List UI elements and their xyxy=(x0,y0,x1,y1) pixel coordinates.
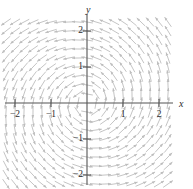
field-arrow xyxy=(146,154,155,161)
field-arrow xyxy=(147,27,154,36)
field-arrow xyxy=(2,45,10,53)
field-arrow xyxy=(46,64,55,70)
field-arrow xyxy=(165,144,172,153)
field-arrow xyxy=(109,37,118,43)
field-arrow xyxy=(128,135,136,142)
field-arrow xyxy=(113,89,115,100)
field-arrow xyxy=(56,144,64,151)
field-arrow xyxy=(66,116,72,125)
field-arrow xyxy=(55,73,64,79)
field-arrow xyxy=(21,171,28,180)
field-arrow xyxy=(157,44,162,54)
field-arrow xyxy=(29,63,37,71)
field-arrow xyxy=(111,71,117,80)
field-arrow xyxy=(2,36,10,43)
field-arrow xyxy=(91,65,101,70)
field-arrow xyxy=(30,162,37,171)
direction-field-figure: x y −2−11221−1−2 xyxy=(0,0,193,189)
field-arrow xyxy=(64,82,73,88)
field-arrow xyxy=(28,37,37,43)
x-tick-label: −2 xyxy=(5,110,25,120)
y-tick-label: 1 xyxy=(63,62,83,72)
field-arrow xyxy=(73,127,83,132)
field-arrow xyxy=(164,162,172,169)
y-tick-label: −1 xyxy=(63,134,83,144)
field-arrow xyxy=(147,44,153,53)
field-arrow xyxy=(47,153,55,161)
field-arrow xyxy=(73,146,83,150)
field-arrow xyxy=(164,172,173,179)
y-tick-label: −2 xyxy=(63,170,83,180)
field-arrow xyxy=(112,80,116,90)
field-arrow xyxy=(159,80,160,91)
field-arrow xyxy=(12,161,18,170)
field-arrow xyxy=(163,181,172,187)
field-arrow xyxy=(55,163,64,169)
field-arrow xyxy=(2,28,11,35)
field-arrow xyxy=(149,80,150,91)
field-arrow xyxy=(19,28,28,34)
field-arrow xyxy=(118,136,127,142)
field-arrow xyxy=(129,53,135,62)
field-arrow xyxy=(138,44,144,53)
field-arrow xyxy=(147,125,153,134)
field-arrow xyxy=(129,62,134,72)
field-arrow xyxy=(165,26,171,35)
field-arrow xyxy=(47,72,55,80)
field-arrow xyxy=(21,152,27,161)
field-arrow xyxy=(100,55,109,61)
field-arrow xyxy=(20,54,28,62)
field-arrow xyxy=(30,152,36,161)
field-arrow xyxy=(73,91,82,97)
field-arrow xyxy=(19,37,28,43)
field-arrow xyxy=(38,162,46,170)
field-arrow xyxy=(20,46,29,53)
field-arrow xyxy=(64,154,74,159)
field-arrow xyxy=(47,172,56,179)
field-arrow xyxy=(3,179,9,188)
field-arrow xyxy=(30,72,37,81)
field-arrow xyxy=(165,17,171,26)
field-arrow xyxy=(100,175,111,176)
field-arrow xyxy=(155,153,163,161)
field-arrow xyxy=(30,80,35,90)
field-arrow xyxy=(100,118,109,124)
field-arrow xyxy=(164,153,172,161)
field-arrow xyxy=(156,35,162,44)
field-arrow xyxy=(119,54,126,62)
field-arrow xyxy=(11,54,18,62)
field-arrow xyxy=(127,154,137,159)
field-arrow xyxy=(138,116,143,126)
field-arrow xyxy=(48,134,54,143)
field-arrow xyxy=(13,152,18,162)
field-arrow xyxy=(21,71,27,80)
field-arrow xyxy=(75,107,81,116)
x-tick-label: 1 xyxy=(113,110,133,120)
x-tick-label: −1 xyxy=(41,110,61,120)
field-arrow xyxy=(102,80,108,89)
field-arrow xyxy=(56,81,64,89)
field-arrow xyxy=(91,129,102,131)
field-arrow xyxy=(137,144,145,151)
y-tick-label: 2 xyxy=(63,26,83,36)
field-arrow xyxy=(10,19,19,25)
field-arrow xyxy=(37,55,46,61)
field-arrow xyxy=(109,28,118,34)
field-arrow xyxy=(100,128,110,132)
field-arrow xyxy=(29,180,37,188)
field-arrow xyxy=(146,135,153,143)
direction-field-canvas xyxy=(0,0,193,189)
field-arrow xyxy=(11,45,19,53)
field-arrow xyxy=(56,154,65,161)
field-arrow xyxy=(47,162,55,169)
field-arrow xyxy=(93,89,99,98)
field-arrow xyxy=(49,89,54,99)
field-arrow xyxy=(40,89,44,99)
field-arrow xyxy=(91,139,102,140)
field-arrow xyxy=(55,181,65,186)
axis-lines xyxy=(5,14,173,185)
field-arrow xyxy=(154,181,163,187)
field-arrow xyxy=(110,46,119,53)
field-arrow xyxy=(119,28,128,35)
field-arrow xyxy=(109,19,119,24)
